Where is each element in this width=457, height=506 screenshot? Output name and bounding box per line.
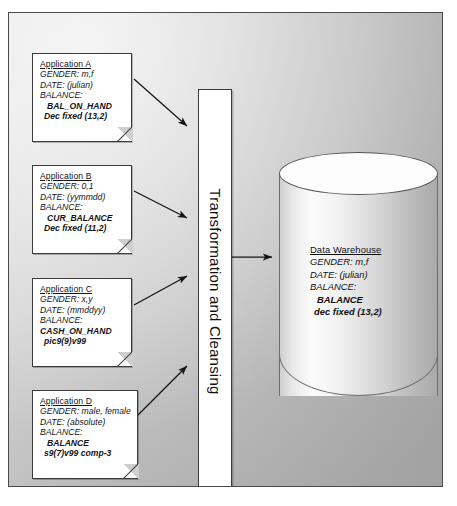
application-d-text: Application D GENDER: male, female DATE:… <box>40 396 133 458</box>
data-warehouse-balance-label: BALANCE: <box>310 281 438 293</box>
application-c-balance-field: CASH_ON_HAND <box>40 326 127 336</box>
application-d-date: DATE: (absolute) <box>40 417 133 427</box>
data-warehouse-cylinder[interactable]: Data Warehouse GENDER: m,f DATE: (julian… <box>279 152 438 417</box>
application-a-title: Application A <box>40 59 127 69</box>
application-a-balance-format: Dec fixed (13,2) <box>40 111 127 121</box>
data-warehouse-title: Data Warehouse <box>310 244 438 256</box>
application-d-balance-label: BALANCE: <box>40 427 133 437</box>
application-b-fold-icon <box>116 238 132 254</box>
application-c-text: Application C GENDER: x,y DATE: (mmddyy)… <box>40 284 127 346</box>
application-a-gender: GENDER: m,f <box>40 69 127 79</box>
application-c-date: DATE: (mmddyy) <box>40 305 127 315</box>
application-c-balance-format: pic9(9)v99 <box>40 336 127 346</box>
application-b-balance-field: CUR_BALANCE <box>40 213 127 223</box>
application-a-date: DATE: (julian) <box>40 80 127 90</box>
data-warehouse-gender: GENDER: m,f <box>310 256 438 268</box>
diagram-frame: Application A GENDER: m,f DATE: (julian)… <box>8 12 443 487</box>
application-c-fold-icon <box>116 351 132 367</box>
arrow-application-c <box>134 276 187 305</box>
application-d-fold-icon <box>122 463 138 479</box>
application-a-text: Application A GENDER: m,f DATE: (julian)… <box>40 59 127 121</box>
data-warehouse-balance-field: BALANCE <box>310 294 438 306</box>
source-document-application-c[interactable]: Application C GENDER: x,y DATE: (mmddyy)… <box>32 278 132 367</box>
source-document-application-d[interactable]: Application D GENDER: male, female DATE:… <box>32 390 138 479</box>
application-a-balance-label: BALANCE: <box>40 90 127 100</box>
transformation-and-cleansing-box[interactable]: Transformation and Cleansing <box>198 89 232 487</box>
application-b-balance-label: BALANCE: <box>40 202 127 212</box>
source-document-application-a[interactable]: Application A GENDER: m,f DATE: (julian)… <box>32 53 132 142</box>
data-warehouse-balance-format: dec fixed (13,2) <box>310 306 438 318</box>
transformation-label: Transformation and Cleansing <box>199 90 233 487</box>
application-b-gender: GENDER: 0,1 <box>40 181 127 191</box>
arrow-application-b <box>134 191 187 218</box>
application-d-balance-field: BALANCE <box>40 438 133 448</box>
application-a-balance-field: BAL_ON_HAND <box>40 101 127 111</box>
data-warehouse-text: Data Warehouse GENDER: m,f DATE: (julian… <box>279 244 438 318</box>
application-d-balance-format: s9(7)v99 comp-3 <box>40 448 133 458</box>
arrow-application-a <box>134 79 187 126</box>
application-d-gender: GENDER: male, female <box>40 406 133 416</box>
application-b-text: Application B GENDER: 0,1 DATE: (yymmdd)… <box>40 171 127 233</box>
application-a-fold-icon <box>116 126 132 142</box>
diagram-canvas: Application A GENDER: m,f DATE: (julian)… <box>0 0 457 506</box>
application-d-title: Application D <box>40 396 133 406</box>
application-b-balance-format: Dec fixed (11,2) <box>40 223 127 233</box>
cylinder-top-ellipse <box>279 152 438 195</box>
application-b-date: DATE: (yymmdd) <box>40 192 127 202</box>
application-c-gender: GENDER: x,y <box>40 294 127 304</box>
application-c-title: Application C <box>40 284 127 294</box>
source-document-application-b[interactable]: Application B GENDER: 0,1 DATE: (yymmdd)… <box>32 165 132 254</box>
application-c-balance-label: BALANCE: <box>40 315 127 325</box>
application-b-title: Application B <box>40 171 127 181</box>
data-warehouse-date: DATE: (julian) <box>310 269 438 281</box>
arrow-application-d <box>134 366 187 419</box>
